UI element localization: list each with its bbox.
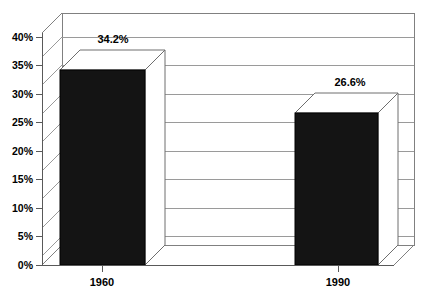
y-axis-ticks [36,37,42,265]
data-label-1960: 34.2% [97,33,128,45]
y-tick-label-30: 30% [12,88,34,100]
bar-1960[interactable] [60,50,165,265]
x-tick-label-1990: 1990 [326,276,350,288]
y-tick-label-15: 15% [12,173,34,185]
bar-chart: 40% 35% 30% 25% 20% 15% 10% 5% 0% [0,0,428,300]
y-tick-label-35: 35% [12,59,34,71]
y-tick-label-0: 0% [18,259,34,271]
bar-1990-side-face [378,93,398,265]
x-axis: 1960 1990 [42,265,394,288]
y-tick-label-40: 40% [12,31,34,43]
chart-canvas: 40% 35% 30% 25% 20% 15% 10% 5% 0% [0,0,428,300]
y-tick-label-5: 5% [18,230,34,242]
data-label-1990: 26.6% [334,76,365,88]
x-tick-label-1960: 1960 [90,276,114,288]
y-tick-label-20: 20% [12,145,34,157]
bar-1990-front-face [295,113,378,265]
bar-1990[interactable] [295,93,398,265]
bar-1960-front-face [60,70,145,265]
y-tick-label-10: 10% [12,202,34,214]
bar-1960-side-face [145,50,165,265]
y-tick-label-25: 25% [12,116,34,128]
y-axis: 40% 35% 30% 25% 20% 15% 10% 5% 0% [12,31,42,271]
